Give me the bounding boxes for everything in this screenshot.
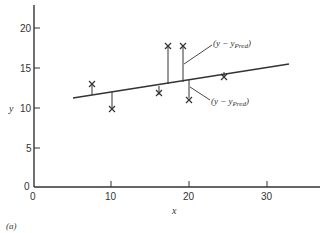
residual-annotation: (y − yPred) [213,38,251,50]
y-ticks [34,28,40,148]
x-axis-label: x [171,205,177,216]
panel-label: (a) [6,221,17,231]
ytick-label: 5 [26,143,32,154]
ytick-label: 15 [20,63,32,74]
ytick-label: 20 [20,23,32,34]
ytick-label: 10 [20,103,32,114]
annotation-leader [190,87,210,100]
y-axis-label: y [8,103,14,114]
residual-annotation: (y − yPred) [211,96,249,108]
xtick-label: 30 [261,191,273,202]
xtick-label: 10 [105,191,117,202]
scatter-chart: 0 5 10 15 20 0 10 20 30 x y (a) (y − [0,0,324,233]
regression-line [73,64,289,98]
annotation-leader [184,45,212,64]
x-ticks [111,181,267,187]
xtick-label: 20 [183,191,195,202]
xtick-label: 0 [30,191,36,202]
